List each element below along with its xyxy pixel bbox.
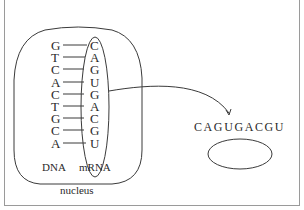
export-arrow (109, 86, 229, 113)
base-pair-lines (63, 45, 87, 143)
dna-label: DNA (42, 161, 66, 173)
nucleus-label: nucleus (60, 184, 94, 196)
dna-base: A (51, 136, 61, 151)
ribosome-oval (208, 139, 272, 169)
cytoplasm-mrna-sequence: CAGUGACGU (194, 120, 285, 134)
mrna-strand: C A G U G A C G U (90, 38, 100, 151)
dna-strand: G T C A C T G C A (51, 38, 61, 151)
mrna-base: U (90, 136, 100, 151)
transcription-diagram: G T C A C T G C A C A G U G A C G U DNA … (0, 0, 304, 210)
mrna-label: mRNA (79, 161, 111, 173)
